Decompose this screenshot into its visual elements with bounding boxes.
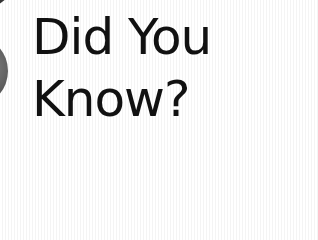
heading-line-1: Did You <box>32 6 211 68</box>
decorative-circle <box>0 38 8 104</box>
did-you-know-heading: Did You Know? <box>32 6 211 130</box>
heading-line-2: Know? <box>32 68 211 130</box>
